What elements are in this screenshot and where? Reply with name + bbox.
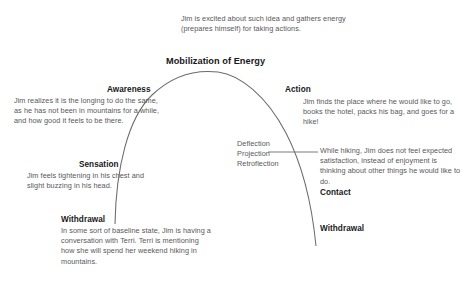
awareness-label: Awareness (107, 85, 151, 94)
mobilization-description: Jim is excited about such idea and gathe… (181, 14, 349, 34)
withdrawal-start-description: In some sort of baseline state, Jim is h… (61, 226, 211, 267)
action-label: Action (285, 85, 311, 94)
contact-label: Contact (320, 188, 351, 197)
mobilization-of-energy-label: Mobilization of Energy (166, 56, 265, 66)
sensation-description: Jim feels tightening in his chest and sl… (27, 171, 159, 191)
withdrawal-start-label: Withdrawal (61, 215, 105, 224)
resistance-types-label: Deflection Projection Retroflection (237, 139, 299, 170)
action-description: Jim finds the place where he would like … (303, 97, 463, 128)
withdrawal-end-label: Withdrawal (320, 224, 364, 233)
cycle-of-experience-diagram: Jim is excited about such idea and gathe… (0, 0, 463, 285)
contact-description: While hiking, Jim does not feel expected… (320, 146, 463, 187)
sensation-label: Sensation (79, 160, 119, 169)
awareness-description: Jim realizes it is the longing to do the… (14, 96, 164, 127)
